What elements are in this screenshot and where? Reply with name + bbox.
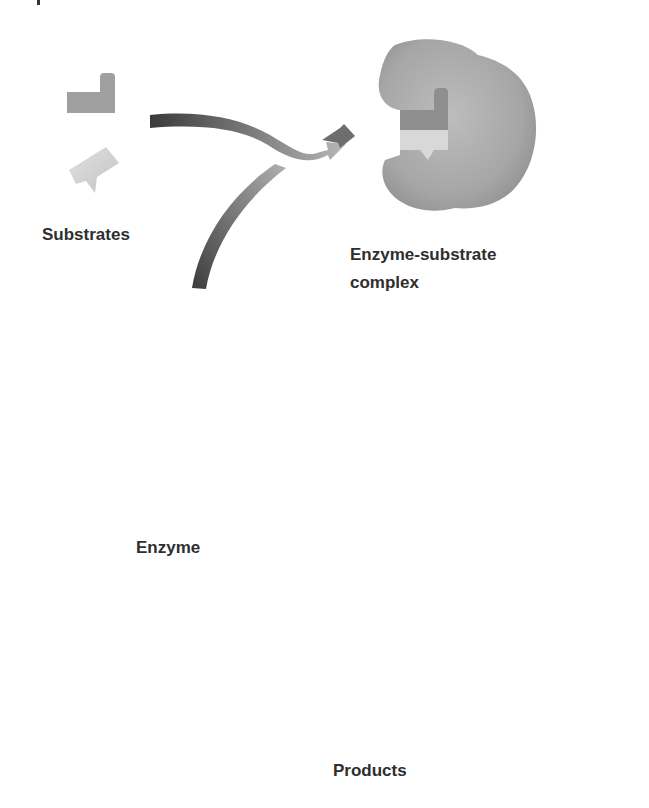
label-complex-line1: Enzyme-substrate bbox=[350, 241, 496, 269]
label-substrates: Substrates bbox=[42, 221, 130, 249]
label-products: Products bbox=[333, 757, 407, 785]
arrow-substrates-to-complex-icon bbox=[150, 114, 355, 161]
edge-mark bbox=[37, 0, 40, 5]
enzyme-substrate-complex-icon bbox=[379, 39, 536, 210]
label-enzyme: Enzyme bbox=[136, 534, 200, 562]
substrate-l-shape-icon bbox=[67, 73, 115, 113]
label-complex-line2: complex bbox=[350, 269, 419, 297]
arrow-enzyme-to-complex-icon bbox=[192, 164, 286, 289]
substrate-wedge-icon bbox=[69, 147, 119, 193]
enzyme-cycle-diagram bbox=[0, 0, 649, 808]
